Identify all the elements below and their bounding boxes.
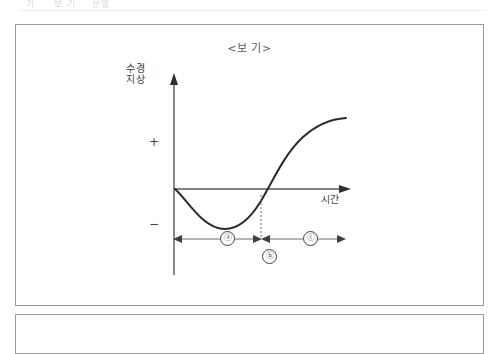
clipped-header-text: 가 보 기 문항 bbox=[26, 0, 466, 9]
clipped-header-segment-3: 문항 bbox=[92, 0, 110, 9]
annotation-marker-c: ⓒ bbox=[303, 231, 318, 246]
next-panel-partial bbox=[15, 314, 484, 354]
chart-svg bbox=[16, 25, 485, 307]
span-arrow-c-left-head bbox=[261, 235, 270, 243]
annotation-marker-a: ⓐ bbox=[220, 231, 235, 246]
clipped-header-segment-1: 가 bbox=[26, 0, 35, 9]
header-divider bbox=[20, 10, 485, 11]
x-axis-arrowhead bbox=[339, 185, 351, 193]
clipped-header-segment-2: 보 기 bbox=[54, 0, 76, 9]
x-axis-label: 시간 bbox=[321, 191, 339, 206]
y-axis-label-char-1: 경 bbox=[136, 63, 145, 74]
j-curve-figure: 경 상 수 지 + − 시간 ⓐ ⓑ ⓒ bbox=[16, 25, 485, 307]
y-axis-label-column-2: 수 지 bbox=[126, 63, 135, 85]
example-panel: <보 기> 경 상 bbox=[15, 24, 484, 306]
y-axis-label-column-1: 경 상 bbox=[136, 63, 145, 85]
negative-sign-label: − bbox=[147, 217, 161, 231]
y-axis-label: 경 상 수 지 bbox=[126, 63, 145, 85]
positive-sign-label: + bbox=[147, 135, 161, 149]
y-axis-label-char-3: 수 bbox=[126, 63, 135, 74]
y-axis-arrowhead bbox=[170, 73, 178, 85]
y-axis-label-char-2: 상 bbox=[136, 74, 145, 85]
span-arrow-c-right-head bbox=[337, 235, 346, 243]
annotation-marker-b: ⓑ bbox=[262, 249, 277, 264]
y-axis-label-char-4: 지 bbox=[126, 74, 135, 85]
